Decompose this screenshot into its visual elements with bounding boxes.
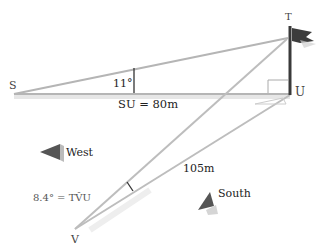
point-v-label: V [71, 234, 79, 245]
line-st [14, 38, 288, 94]
v-shadow [90, 190, 150, 230]
point-t-label: T [285, 12, 292, 22]
point-s-label: S [9, 80, 17, 91]
west-arrow-icon [40, 144, 60, 160]
angle-s-label: 11° [113, 78, 133, 89]
point-u-label: U [295, 86, 305, 98]
right-angle-marker [268, 80, 288, 93]
distance-su-label: SU = 80m [118, 99, 178, 111]
south-label: South [218, 188, 251, 199]
west-arrow-shade [60, 144, 64, 162]
trig-diagram [0, 0, 317, 252]
line-vt [75, 39, 287, 229]
west-label: West [66, 147, 93, 158]
distance-vu-label: 105m [183, 163, 214, 174]
angle-v-label: 8.4° = TV̂U [33, 193, 91, 203]
angle-v-marker [127, 182, 133, 191]
